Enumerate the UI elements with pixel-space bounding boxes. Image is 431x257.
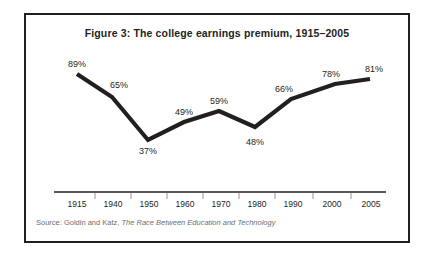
data-label-1980: 48% — [246, 137, 264, 147]
x-axis-label-2005: 2005 — [362, 199, 381, 209]
chart-plot-area: 89%65%37%49%59%48%66%78%81% 191519401950… — [26, 15, 412, 245]
figure-container: Figure 3: The college earnings premium, … — [24, 13, 410, 243]
x-axis-label-1940: 1940 — [104, 199, 123, 209]
data-label-2000: 78% — [322, 69, 340, 79]
x-axis-label-1950: 1950 — [140, 199, 159, 209]
data-label-1950: 37% — [139, 146, 157, 156]
data-label-1940: 65% — [110, 80, 128, 90]
x-axis-label-1990: 1990 — [284, 199, 303, 209]
data-label-1915: 89% — [68, 59, 86, 69]
x-axis-label-1970: 1970 — [212, 199, 231, 209]
source-book-title: The Race Between Education and Technolog… — [121, 218, 275, 227]
source-note: Source: Goldin and Katz, The Race Betwee… — [36, 218, 275, 227]
data-label-1970: 59% — [210, 96, 228, 106]
x-axis-label-2000: 2000 — [323, 199, 342, 209]
x-axis-label-1960: 1960 — [176, 199, 195, 209]
data-label-1960: 49% — [175, 107, 193, 117]
x-axis-label-1980: 1980 — [248, 199, 267, 209]
line-chart-svg — [26, 15, 412, 245]
source-prefix: Source: Goldin and Katz, — [36, 218, 121, 227]
data-label-1990: 66% — [275, 84, 293, 94]
x-axis-label-1915: 1915 — [68, 199, 87, 209]
data-label-2005: 81% — [365, 64, 383, 74]
